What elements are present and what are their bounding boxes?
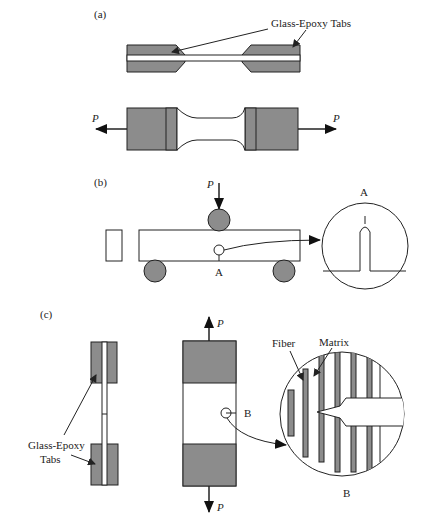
panel-b-label: (b) xyxy=(94,176,107,189)
detail-label-a: A xyxy=(360,186,368,198)
panel-a: (a) Glass-Epoxy Tabs P P xyxy=(91,8,351,150)
matrix-label: Matrix xyxy=(319,336,349,348)
load-label-right: P xyxy=(332,112,340,124)
load-label-bottom: P xyxy=(216,501,224,513)
detail-label-b: B xyxy=(343,487,350,499)
point-label-b: B xyxy=(244,407,251,419)
dogbone-specimen-top-view xyxy=(127,108,298,150)
load-label-left: P xyxy=(91,112,99,124)
glass-epoxy-tabs-callout-line2: Tabs xyxy=(40,453,61,465)
glass-epoxy-tabs-callout-line1: Glass-Epoxy xyxy=(28,439,85,451)
tabbed-specimen-side-view xyxy=(127,45,300,72)
fiber-matrix-detail-circle xyxy=(280,352,410,476)
beam-cross-section xyxy=(106,230,122,261)
notch-marker xyxy=(214,245,224,255)
notch-point-label: A xyxy=(215,266,223,278)
figure: (a) Glass-Epoxy Tabs P P (b) P xyxy=(0,0,421,520)
callout-arrow-right xyxy=(293,30,306,47)
load-label: P xyxy=(206,178,214,190)
fiber-label: Fiber xyxy=(272,337,296,349)
loading-roller xyxy=(208,209,230,231)
notch-detail-circle xyxy=(322,203,408,289)
panel-b: (b) P A A xyxy=(94,176,408,289)
panel-c-label: (c) xyxy=(40,308,53,321)
glass-epoxy-tabs-callout: Glass-Epoxy Tabs xyxy=(271,17,351,29)
callout-arrow-top-tab xyxy=(64,375,96,435)
support-roller-right xyxy=(273,260,295,282)
panel-a-label: (a) xyxy=(94,8,107,21)
panel-c: (c) Glass-Epoxy Tabs P P B xyxy=(28,308,410,513)
support-roller-left xyxy=(144,260,166,282)
load-label-top: P xyxy=(216,317,224,329)
